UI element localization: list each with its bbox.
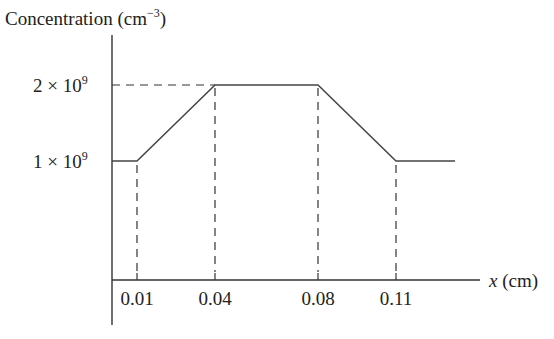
- x-tick-label: 0.04: [198, 288, 232, 309]
- x-ticks: [137, 273, 396, 280]
- dashed-guides: [112, 85, 396, 272]
- concentration-profile-line: [112, 85, 455, 161]
- x-tick-label: 0.08: [301, 288, 334, 309]
- y-tick-label-2e9: 2 × 109: [33, 73, 88, 96]
- y-axis-title: Concentration (cm−3): [5, 6, 166, 30]
- x-axis-title: x (cm): [488, 270, 538, 292]
- y-tick-label-1e9: 1 × 109: [33, 149, 88, 172]
- concentration-chart: Concentration (cm−3) 2 × 109 1 × 109 0.0…: [0, 0, 554, 339]
- x-tick-label: 0.11: [380, 288, 413, 309]
- x-tick-label: 0.01: [120, 288, 153, 309]
